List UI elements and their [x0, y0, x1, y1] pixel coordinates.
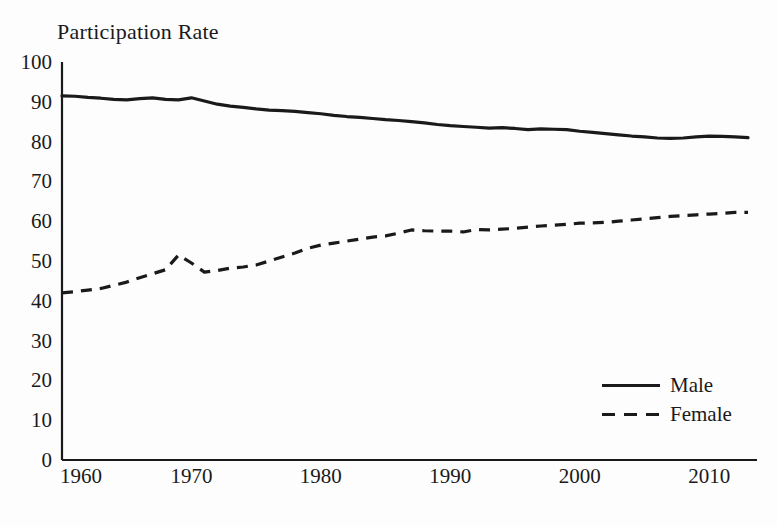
series-line-female [62, 212, 748, 292]
x-tick-label-1970: 1970 [170, 466, 212, 487]
series-lines [62, 96, 748, 293]
x-tick-label-1990: 1990 [429, 466, 471, 487]
chart-legend: Male Female [600, 371, 775, 433]
legend-label-female: Female [670, 402, 732, 427]
legend-item-male: Male [600, 371, 713, 399]
legend-swatch-solid-icon [600, 379, 662, 391]
legend-label-male: Male [670, 373, 713, 398]
x-tick-label-1960: 1960 [60, 466, 102, 487]
legend-swatch-dashed-icon [600, 408, 662, 420]
x-tick-label-1980: 1980 [300, 466, 342, 487]
x-tick-label-2010: 2010 [688, 466, 730, 487]
series-line-male [62, 96, 748, 139]
legend-item-female: Female [600, 400, 732, 428]
x-tick-label-2000: 2000 [559, 466, 601, 487]
chart-plot-area [0, 0, 777, 527]
participation-rate-figure: Participation Rate 100908070605040302010… [0, 0, 777, 527]
